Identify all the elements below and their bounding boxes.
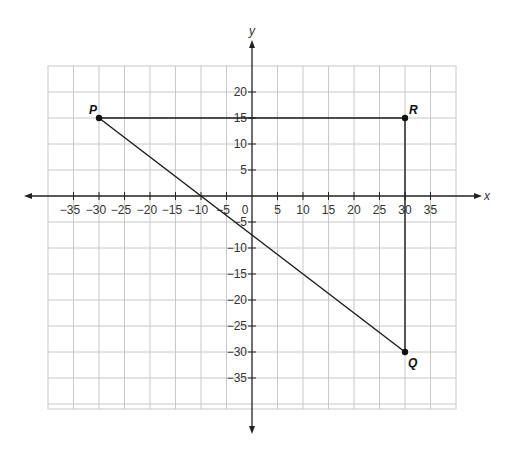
y-tick-label: 10 (234, 137, 248, 151)
y-tick-label: 5 (240, 163, 247, 177)
y-tick-label: −35 (227, 371, 248, 385)
x-tick-label: −10 (188, 203, 209, 217)
x-tick-label: −25 (111, 203, 132, 217)
y-tick-label: −15 (227, 267, 248, 281)
point-q-label: Q (408, 356, 418, 370)
y-tick-label: −20 (227, 293, 248, 307)
x-tick-label: −15 (162, 203, 183, 217)
origin-label: 0 (242, 203, 249, 217)
y-tick-labels: 20 15 10 5 −5 −10 −15 −20 −25 −30 −35 (227, 85, 248, 385)
x-axis-label: x (483, 189, 491, 203)
y-tick-label: −30 (227, 345, 248, 359)
y-tick-label: 20 (234, 85, 248, 99)
y-tick-label: −10 (227, 241, 248, 255)
x-tick-label: 10 (296, 203, 310, 217)
point-q (402, 349, 408, 355)
axes (24, 40, 482, 434)
x-tick-label: 5 (274, 203, 281, 217)
point-r (402, 115, 408, 121)
point-r-label: R (409, 103, 418, 117)
y-axis-up-arrow-icon (249, 40, 255, 48)
x-tick-label: 20 (347, 203, 361, 217)
x-tick-label: 25 (373, 203, 387, 217)
x-tick-label: −30 (86, 203, 107, 217)
y-axis-down-arrow-icon (249, 426, 255, 434)
x-tick-label: −35 (60, 203, 81, 217)
point-p-label: P (89, 103, 98, 117)
x-tick-label: 15 (322, 203, 336, 217)
x-tick-label: −20 (137, 203, 158, 217)
y-tick-label: −25 (227, 319, 248, 333)
x-tick-labels: −35 −30 −25 −20 −15 −10 −5 5 10 15 20 25… (60, 203, 438, 217)
x-axis-right-arrow-icon (474, 193, 482, 199)
coordinate-plane: −35 −30 −25 −20 −15 −10 −5 5 10 15 20 25… (0, 0, 507, 455)
x-axis-left-arrow-icon (24, 193, 32, 199)
y-axis-label: y (248, 24, 256, 38)
x-tick-label: 35 (424, 203, 438, 217)
